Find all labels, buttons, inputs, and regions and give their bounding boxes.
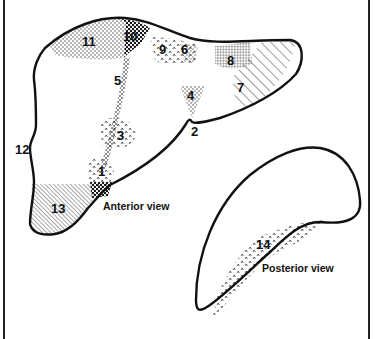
label-region-2: 2 xyxy=(191,124,198,139)
label-region-9: 9 xyxy=(159,42,166,57)
label-region-4: 4 xyxy=(187,88,195,103)
label-region-5: 5 xyxy=(114,73,121,88)
posterior-view-label: Posterior view xyxy=(262,262,335,274)
label-region-6: 6 xyxy=(181,42,188,57)
liver-diagram: 11 10 9 6 8 7 5 4 2 3 1 12 13 14 Anterio… xyxy=(0,0,376,339)
label-region-11: 11 xyxy=(82,34,96,49)
label-region-7: 7 xyxy=(237,80,244,95)
posterior-liver-outline xyxy=(196,147,360,309)
label-region-12: 12 xyxy=(15,142,29,157)
label-region-8: 8 xyxy=(227,53,234,68)
label-region-10: 10 xyxy=(123,29,137,44)
anterior-view-label: Anterior view xyxy=(103,200,170,212)
label-region-3: 3 xyxy=(117,128,124,143)
label-region-1: 1 xyxy=(98,164,105,179)
label-region-14: 14 xyxy=(256,237,271,252)
label-region-13: 13 xyxy=(51,201,65,216)
